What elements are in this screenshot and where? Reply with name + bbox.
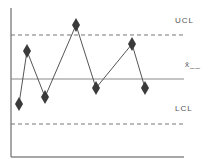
data-line: [19, 25, 145, 104]
lcl-label: LCL: [175, 104, 193, 113]
diamond-marker-icon: [41, 90, 49, 104]
diamond-marker-icon: [72, 18, 80, 32]
diamond-marker-icon: [128, 37, 136, 51]
ucl-label: UCL: [175, 16, 194, 25]
data-markers: [15, 18, 149, 111]
center-line-label: x̄__: [185, 60, 201, 69]
diamond-marker-icon: [15, 97, 23, 111]
diamond-marker-icon: [23, 44, 31, 58]
diamond-marker-icon: [141, 81, 149, 95]
diamond-marker-icon: [92, 81, 100, 95]
